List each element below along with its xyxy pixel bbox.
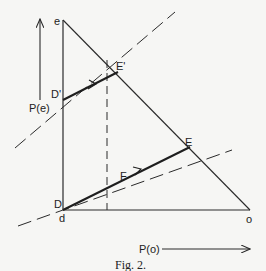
vector-d-prime-e-prime [63,72,118,100]
dashed-line-lower [18,150,232,226]
figure-2-diagram: e D' E' P(e) F E D d o P(o) Fig. 2. [0,0,266,271]
label-d-prime: D' [51,88,61,100]
label-f: F [120,170,127,182]
label-big-e: E [185,136,192,148]
label-p-e: P(e) [29,102,50,114]
dashed-line-upper [15,12,175,148]
label-p-o: P(o) [139,243,160,255]
label-o: o [246,213,252,225]
figure-caption: Fig. 2. [115,258,146,271]
label-e: e [54,15,60,27]
label-big-d: D [54,198,62,210]
label-e-prime: E' [116,60,125,72]
hypotenuse-line-e-o [63,20,250,210]
label-d: d [59,212,65,224]
